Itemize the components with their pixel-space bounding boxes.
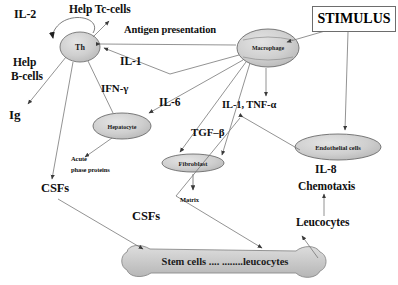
label-ig: Ig — [9, 108, 20, 122]
label-csfs-left: CSFs — [41, 182, 69, 196]
node-stemcells — [122, 245, 326, 277]
label-il8: IL-8 — [315, 163, 336, 175]
label-antigen-presentation: Antigen presentation — [124, 24, 216, 35]
node-fibroblast — [162, 154, 224, 172]
node-macrophage — [237, 29, 299, 67]
edge-hepatocyte-acutephase — [85, 138, 112, 157]
label-help-tc-cells: Help Tc-cells — [69, 3, 131, 15]
label-leucocytes: Leucocytes — [296, 216, 349, 228]
label-acute-phase-line2: phase proteins — [71, 166, 110, 173]
label-matrix: Matrix — [180, 196, 199, 203]
label-ifn-gamma: IFN-γ — [101, 83, 128, 95]
stimulus-label: STIMULUS — [317, 11, 390, 27]
label-acute-phase-line1: Acute — [71, 155, 87, 162]
node-stimulus: STIMULUS — [312, 6, 396, 32]
label-il2: IL-2 — [14, 8, 36, 21]
label-il1-tnf-alpha: IL-1, TNF-α — [222, 99, 276, 110]
diagram-canvas: Th Macrophage Hepatocyte Fibroblast Endo… — [0, 0, 398, 285]
label-tgf-beta: TGF–β — [191, 127, 224, 139]
node-hepatocyte — [93, 113, 151, 139]
edge-th-csfs — [52, 62, 73, 179]
edge-csfs-stemcells — [58, 199, 143, 249]
edge-il1tnf-endothelial — [243, 117, 300, 150]
node-endothelial — [295, 134, 381, 160]
label-csfs-center: CSFs — [132, 210, 160, 224]
label-chemotaxis: Chemotaxis — [298, 180, 355, 192]
edge-th-tccells — [93, 21, 109, 37]
edge-stimulus-endothelial — [345, 32, 348, 130]
diagram-connectors — [0, 0, 398, 285]
label-help-b-cells-line2: B-cells — [11, 70, 43, 82]
label-help-b-cells-line1: Help — [13, 56, 36, 68]
label-il1: IL-1 — [120, 55, 141, 67]
edge-csfs-center-stemcells — [176, 196, 262, 248]
label-il6: IL-6 — [159, 96, 180, 108]
edge-th-macrophage-antigen — [100, 44, 236, 45]
